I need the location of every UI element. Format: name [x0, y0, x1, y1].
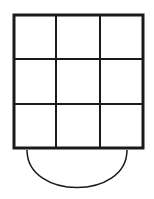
diagram-canvas — [0, 0, 154, 199]
grid-diagram — [0, 0, 154, 199]
semicircle-arc — [27, 150, 127, 188]
grid — [13, 14, 144, 149]
grid-outer-border — [14, 15, 143, 148]
